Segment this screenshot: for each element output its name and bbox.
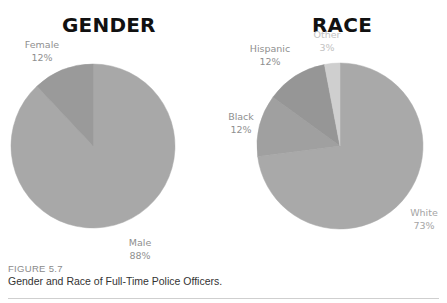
female-name: Female: [22, 38, 62, 51]
other-name: Other: [307, 28, 347, 41]
hispanic-label: Hispanic 12%: [245, 42, 295, 68]
race-pie: [257, 63, 423, 229]
gender-pie: [11, 64, 175, 228]
divider: [8, 298, 439, 299]
male-pct: 88%: [120, 249, 160, 262]
female-label: Female 12%: [22, 38, 62, 64]
pie-charts: [0, 0, 447, 303]
female-pct: 12%: [22, 51, 62, 64]
other-pct: 3%: [307, 41, 347, 54]
figure-number: FIGURE 5.7: [8, 263, 63, 274]
other-label: Other 3%: [307, 28, 347, 54]
male-name: Male: [120, 236, 160, 249]
black-name: Black: [224, 110, 258, 123]
black-pct: 12%: [224, 123, 258, 136]
white-name: White: [404, 206, 444, 219]
white-pct: 73%: [404, 219, 444, 232]
hispanic-name: Hispanic: [245, 42, 295, 55]
black-label: Black 12%: [224, 110, 258, 136]
hispanic-pct: 12%: [245, 55, 295, 68]
male-label: Male 88%: [120, 236, 160, 262]
figure-caption: Gender and Race of Full-Time Police Offi…: [8, 275, 222, 287]
white-label: White 73%: [404, 206, 444, 232]
